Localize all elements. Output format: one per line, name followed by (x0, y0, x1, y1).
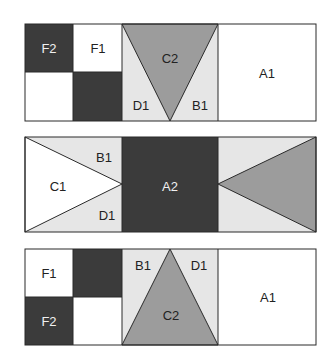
label-f2: F2 (41, 41, 56, 56)
label-c2: C2 (162, 51, 179, 66)
label-d1: D1 (133, 98, 150, 113)
label-b1: B1 (192, 98, 208, 113)
label-c2: C2 (163, 308, 180, 323)
label-a1: A1 (260, 290, 276, 305)
label-d1: D1 (191, 258, 208, 273)
block-middle: B1 C1 D1 A2 (25, 137, 316, 232)
label-b1: B1 (135, 258, 151, 273)
square-blank-white (73, 297, 122, 345)
square-blank-dark (73, 72, 122, 121)
label-b1: B1 (96, 150, 112, 165)
label-c1: C1 (50, 179, 67, 194)
label-f1: F1 (41, 266, 56, 281)
label-d1: D1 (99, 208, 116, 223)
quilt-block-diagram: F2 F1 C2 D1 B1 A1 B1 C1 D1 A2 F1 F2 (0, 0, 332, 354)
label-a2: A2 (162, 179, 178, 194)
label-a1: A1 (259, 66, 275, 81)
square-blank-white (25, 72, 73, 121)
label-f2: F2 (41, 314, 56, 329)
block-bottom: F1 F2 B1 D1 C2 A1 (25, 249, 316, 345)
square-blank-dark (73, 249, 122, 297)
label-f1: F1 (90, 41, 105, 56)
block-top: F2 F1 C2 D1 B1 A1 (25, 24, 316, 121)
